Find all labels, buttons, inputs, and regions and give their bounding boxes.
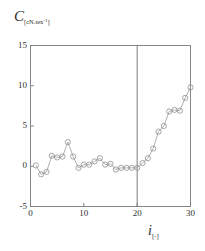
x-tick-label: 0: [19, 209, 43, 218]
data-point-marker: [135, 165, 140, 170]
data-point-marker: [81, 162, 86, 167]
data-point-marker: [55, 155, 60, 160]
data-point-marker: [140, 160, 145, 165]
data-point-marker: [97, 156, 102, 161]
data-point-marker: [177, 108, 182, 113]
data-point-marker: [39, 172, 44, 177]
data-point-markers: [33, 85, 193, 177]
y-tick-label: 10: [5, 81, 27, 90]
data-point-marker: [92, 159, 97, 164]
data-point-marker: [65, 140, 70, 145]
data-series-line: [36, 87, 191, 174]
data-point-marker: [76, 165, 81, 170]
data-point-marker: [113, 167, 118, 172]
data-point-marker: [33, 163, 38, 168]
chart-figure: C[cN.tex-1] i[-] -50510150102030: [0, 0, 205, 251]
data-point-marker: [183, 95, 188, 100]
y-tick-label: 0: [5, 161, 27, 170]
data-point-marker: [161, 123, 166, 128]
y-tick-label: 15: [5, 41, 27, 50]
data-point-marker: [44, 169, 49, 174]
data-point-marker: [87, 162, 92, 167]
data-point-marker: [129, 165, 134, 170]
x-tick-label: 20: [125, 209, 149, 218]
data-point-marker: [108, 161, 113, 166]
data-point-marker: [103, 162, 108, 167]
x-tick-label: 30: [179, 209, 203, 218]
x-tick-label: 10: [72, 209, 96, 218]
data-point-marker: [156, 129, 161, 134]
data-point-marker: [151, 146, 156, 151]
data-point-marker: [172, 107, 177, 112]
data-point-marker: [71, 154, 76, 159]
data-point-marker: [49, 153, 54, 158]
data-point-marker: [188, 85, 193, 90]
data-point-marker: [124, 165, 129, 170]
y-tick-label: 5: [5, 121, 27, 130]
data-point-marker: [145, 156, 150, 161]
data-point-marker: [167, 109, 172, 114]
data-point-marker: [60, 154, 65, 159]
data-point-marker: [119, 165, 124, 170]
